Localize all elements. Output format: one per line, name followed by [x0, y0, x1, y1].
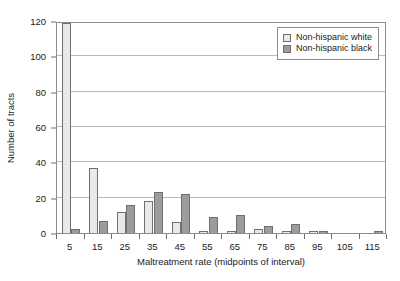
x-tick-mark-end: [386, 234, 387, 239]
bar-35-white: [144, 201, 153, 233]
y-axis-title-wrap: Number of tracts: [14, 0, 15, 256]
y-tick-label-40: 40: [35, 159, 46, 169]
x-tick-mark-85: [276, 234, 277, 239]
bar-group-95: [309, 231, 328, 233]
bar-15-black: [99, 221, 108, 233]
y-axis-title: Number of tracts: [5, 93, 16, 163]
bar-115-black: [374, 231, 383, 233]
x-tick-label-105: 105: [337, 242, 353, 252]
bar-group-115: [364, 231, 383, 233]
y-tick-label-0: 0: [41, 229, 46, 239]
y-tick-label-20: 20: [35, 194, 46, 204]
x-tick-label-95: 95: [312, 242, 323, 252]
x-tick-mark-105: [331, 234, 332, 239]
bar-55-black: [209, 217, 218, 233]
bar-group-65: [227, 215, 246, 233]
x-tick-mark-15: [84, 234, 85, 239]
legend-label-2: Non-hispanic black: [296, 44, 372, 54]
x-tick-mark-45: [166, 234, 167, 239]
y-tick-label-60: 60: [35, 123, 46, 133]
legend-item-2: Non-hispanic black: [283, 44, 372, 54]
x-axis: 5152535455565758595105115: [56, 234, 386, 254]
x-tick-label-65: 65: [229, 242, 240, 252]
x-tick-mark-25: [111, 234, 112, 239]
bar-group-55: [199, 217, 218, 233]
x-tick-mark-5: [56, 234, 57, 239]
bar-group-75: [254, 226, 273, 233]
x-tick-label-85: 85: [284, 242, 295, 252]
bar-45-black: [181, 194, 190, 233]
bar-group-5: [62, 23, 81, 233]
bar-25-black: [126, 205, 135, 233]
bar-65-black: [236, 215, 245, 233]
legend-item-1: Non-hispanic white: [283, 33, 372, 43]
y-tick-label-80: 80: [35, 88, 46, 98]
bar-75-black: [264, 226, 273, 233]
x-tick-label-115: 115: [365, 242, 380, 252]
bar-65-white: [227, 231, 236, 233]
bar-45-white: [172, 222, 181, 233]
x-tick-label-75: 75: [257, 242, 268, 252]
bar-55-white: [199, 231, 208, 233]
bar-group-45: [172, 194, 191, 233]
bar-group-85: [282, 224, 301, 233]
x-tick-mark-55: [194, 234, 195, 239]
bar-75-white: [254, 229, 263, 233]
x-tick-mark-35: [139, 234, 140, 239]
bar-95-white: [309, 231, 318, 233]
bar-5-white: [62, 23, 71, 233]
x-tick-label-5: 5: [67, 242, 72, 252]
x-tick-mark-75: [249, 234, 250, 239]
legend-swatch-white: [283, 34, 291, 42]
legend: Non-hispanic whiteNon-hispanic black: [277, 27, 379, 60]
bar-15-white: [89, 168, 98, 233]
x-tick-label-45: 45: [174, 242, 185, 252]
bar-25-white: [117, 212, 126, 233]
bar-group-25: [117, 205, 136, 233]
histogram-figure: 020406080100120 Number of tracts 5152535…: [0, 0, 400, 281]
bar-85-white: [282, 231, 291, 233]
x-axis-title: Maltreatment rate (midpoints of interval…: [56, 256, 386, 267]
x-tick-label-15: 15: [92, 242, 103, 252]
bar-95-black: [319, 231, 328, 233]
x-tick-mark-115: [359, 234, 360, 239]
y-tick-label-120: 120: [30, 17, 46, 27]
bar-35-black: [154, 192, 163, 233]
bar-85-black: [291, 224, 300, 233]
x-tick-label-55: 55: [202, 242, 213, 252]
y-tick-label-100: 100: [30, 53, 46, 63]
x-tick-label-35: 35: [147, 242, 158, 252]
x-tick-mark-65: [221, 234, 222, 239]
x-tick-mark-95: [304, 234, 305, 239]
legend-swatch-black: [283, 45, 291, 53]
bar-5-black: [71, 229, 80, 233]
legend-label-1: Non-hispanic white: [296, 33, 372, 43]
bar-group-15: [89, 168, 108, 233]
x-tick-label-25: 25: [119, 242, 130, 252]
bar-group-35: [144, 192, 163, 233]
